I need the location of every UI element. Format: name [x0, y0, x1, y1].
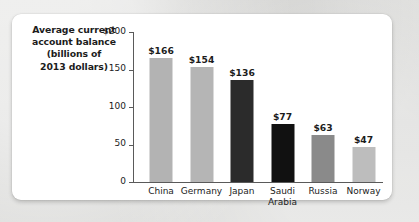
bar: $136	[231, 80, 254, 182]
bar: $47	[352, 147, 375, 182]
y-tick-mark	[129, 70, 134, 71]
y-tick-label: 100	[109, 101, 126, 111]
bar-group: $47Norway	[344, 32, 384, 182]
y-tick-mark	[129, 107, 134, 108]
y-tick-mark	[129, 32, 134, 33]
bar-value-label: $136	[229, 67, 255, 78]
y-tick-label: 0	[120, 176, 126, 186]
plot-area: 050100150$200 $166China$154Germany$136Ja…	[133, 32, 385, 184]
bar-value-label: $77	[273, 111, 292, 122]
chart-title-line: account balance	[18, 36, 130, 48]
bar-value-label: $63	[313, 122, 332, 133]
bar-group: $154Germany	[182, 32, 222, 182]
category-label-line: Norway	[337, 186, 391, 197]
bar-value-label: $154	[189, 54, 215, 65]
category-label: Norway	[337, 186, 391, 197]
bar-value-label: $166	[148, 45, 174, 56]
bar-group: $63Russia	[303, 32, 343, 182]
y-tick-label: 150	[109, 63, 126, 73]
bar: $166	[150, 58, 173, 183]
category-label-line: Arabia	[256, 197, 310, 208]
bar: $154	[190, 67, 213, 183]
chart-title-line: (billions of	[18, 48, 130, 60]
bar-value-label: $47	[354, 134, 373, 145]
bar: $77	[271, 124, 294, 182]
y-tick-label: 50	[115, 138, 126, 148]
y-tick-mark	[129, 145, 134, 146]
chart-card: Average currentaccount balance(billions …	[12, 14, 392, 200]
bar-group: $166China	[141, 32, 181, 182]
bar: $63	[312, 135, 335, 182]
y-tick-label: $200	[103, 26, 126, 36]
y-tick-mark	[129, 182, 134, 183]
bar-group: $136Japan	[222, 32, 262, 182]
bar-group: $77SaudiArabia	[263, 32, 303, 182]
x-axis-line	[133, 182, 383, 183]
